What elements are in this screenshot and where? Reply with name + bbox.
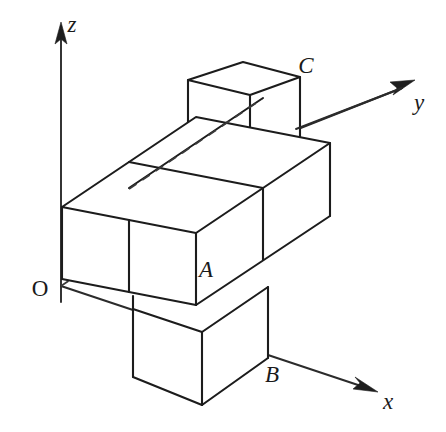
x-axis-label: x — [382, 389, 394, 414]
z-axis-label: z — [67, 12, 77, 37]
point-label-A: A — [197, 257, 214, 282]
bottom-cube-right-face — [202, 287, 268, 405]
y-axis-overlay — [296, 88, 402, 129]
point-label-C: C — [298, 53, 314, 78]
point-label-B: B — [265, 362, 279, 387]
y-axis-visible-overlay — [296, 88, 402, 129]
bottom-cube — [133, 287, 268, 405]
y-axis-label: y — [412, 90, 425, 115]
origin-label: O — [32, 276, 49, 301]
cube-coordinate-diagram: O x y z A B C — [0, 0, 446, 432]
